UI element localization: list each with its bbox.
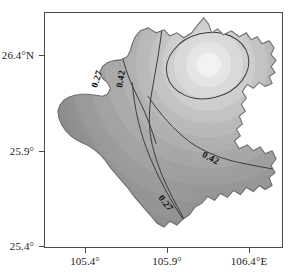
- x-tick-mark-1: [167, 248, 168, 253]
- y-tick-mark-1: [39, 151, 44, 152]
- y-tick-mark-0: [39, 55, 44, 56]
- contour-map-figure: 0.27 0.42 0.42 0.27 26.4°N 25.9° 25.4° 1…: [0, 0, 296, 278]
- x-axis-tick-label-2: 106.4°E: [231, 255, 268, 267]
- y-axis-tick-label-2: 25.4°: [10, 240, 34, 252]
- shaded-field: [45, 13, 282, 247]
- y-axis-tick-label-0: 26.4°N: [2, 49, 34, 61]
- x-axis-tick-label-1: 105.9°: [152, 255, 182, 267]
- x-axis-tick-label-0: 105.4°: [70, 255, 100, 267]
- plot-frame: 0.27 0.42 0.42 0.27: [44, 12, 283, 248]
- y-tick-mark-2: [39, 246, 44, 247]
- x-tick-mark-2: [249, 248, 250, 253]
- y-axis-tick-label-1: 25.9°: [10, 145, 34, 157]
- map-contour-svg: [45, 13, 282, 247]
- x-tick-mark-0: [85, 248, 86, 253]
